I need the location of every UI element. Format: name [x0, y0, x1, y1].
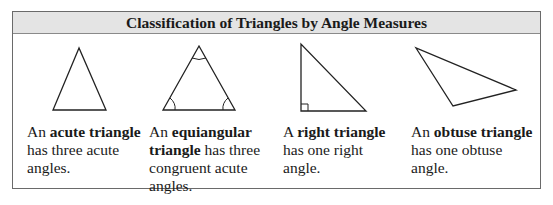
acute-description: An acute triangle has three acute angles…	[27, 123, 145, 177]
column-acute: An acute triangle has three acute angles…	[13, 34, 141, 190]
column-obtuse: An obtuse triangle has one obtuse angle.	[403, 34, 541, 190]
acute-term: acute triangle	[50, 123, 141, 140]
obtuse-triangle-icon	[403, 34, 541, 119]
right-description: A right triangle has one right angle.	[283, 123, 403, 177]
obtuse-description: An obtuse triangle has one obtuse angle.	[411, 123, 536, 177]
column-right: A right triangle has one right angle.	[275, 34, 403, 190]
right-triangle-icon	[275, 34, 403, 119]
right-term: right triangle	[297, 123, 385, 140]
acute-triangle-icon	[13, 34, 141, 119]
obtuse-term: obtuse triangle	[434, 123, 533, 140]
table-body: An acute triangle has three acute angles…	[13, 34, 540, 190]
equiangular-triangle-icon	[141, 34, 275, 119]
triangle-classification-table: Classification of Triangles by Angle Mea…	[12, 11, 541, 189]
table-title: Classification of Triangles by Angle Mea…	[13, 12, 540, 34]
equiangular-description: An equiangular triangle has three congru…	[149, 123, 269, 195]
column-equiangular: An equiangular triangle has three congru…	[141, 34, 275, 190]
